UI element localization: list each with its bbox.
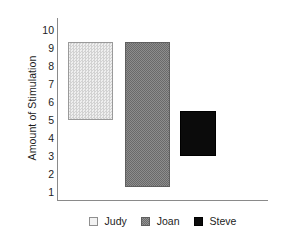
y-tick-2: 2	[36, 169, 54, 179]
plot-area	[57, 18, 268, 201]
y-tick-3: 3	[36, 151, 54, 161]
y-tick-9: 9	[36, 43, 54, 53]
y-tick-10: 10	[36, 25, 54, 35]
bar-joan[interactable]	[125, 42, 170, 187]
legend-label-judy: Judy	[105, 216, 127, 227]
legend-swatch-steve-icon	[194, 217, 203, 226]
y-tick-6: 6	[36, 97, 54, 107]
legend-item-steve[interactable]: Steve	[194, 216, 237, 227]
legend-swatch-judy-icon	[89, 217, 98, 226]
y-tick-5: 5	[36, 115, 54, 125]
y-axis-tick-labels: 10 9 8 7 6 5 4 3 2 1	[34, 0, 54, 237]
legend-item-judy[interactable]: Judy	[89, 216, 127, 227]
legend-item-joan[interactable]: Joan	[141, 216, 180, 227]
y-tick-4: 4	[36, 133, 54, 143]
chart-legend: Judy Joan Steve	[57, 213, 268, 229]
legend-label-steve: Steve	[210, 216, 237, 227]
y-tick-8: 8	[36, 61, 54, 71]
bar-chart: Amount of Stimulation 10 9 8 7 6 5 4 3 2…	[0, 0, 283, 237]
y-tick-1: 1	[36, 187, 54, 197]
legend-swatch-joan-icon	[141, 217, 150, 226]
bar-judy[interactable]	[68, 42, 113, 120]
bar-steve[interactable]	[180, 111, 216, 156]
y-tick-7: 7	[36, 79, 54, 89]
legend-label-joan: Joan	[157, 216, 180, 227]
